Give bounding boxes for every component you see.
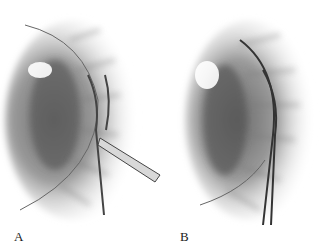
panel-b xyxy=(165,0,331,232)
panel-label-b: B xyxy=(180,229,189,245)
panel-label-a: A xyxy=(14,229,23,245)
iris-forceps-illustration xyxy=(165,0,331,232)
panel-a xyxy=(0,0,170,232)
iris-scissors-illustration xyxy=(0,0,170,232)
